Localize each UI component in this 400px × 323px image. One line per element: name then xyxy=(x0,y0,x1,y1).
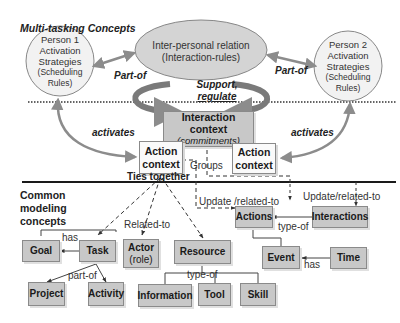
actions-box: Actions xyxy=(235,206,273,228)
interaction-context-subtitle: (commitments) xyxy=(177,135,240,147)
information-box: Information xyxy=(138,284,192,307)
type-of-actions-label: type-of xyxy=(278,221,309,232)
activates-left-label: activates xyxy=(92,127,135,138)
resource-box: Resource xyxy=(174,240,231,264)
action-context-left-line2: context xyxy=(142,158,179,171)
person1-line2: Activation xyxy=(26,45,94,56)
action-context-right-box: Action context xyxy=(232,143,276,174)
skill-box: Skill xyxy=(240,283,276,306)
action-context-left-box: Action context xyxy=(139,141,183,174)
task-box: Task xyxy=(79,240,116,262)
support-regulate-label: Support, regulate xyxy=(192,79,242,103)
part-of-right-label: Part-of xyxy=(275,65,307,76)
person2-label: Person 2 xyxy=(314,39,382,50)
actor-box: Actor (role) xyxy=(123,239,159,268)
person1-line3: Strategies xyxy=(26,56,94,67)
heading-line3: concepts xyxy=(20,215,67,228)
relation-node: Inter-personal relation (Interaction-rul… xyxy=(140,40,262,64)
has-time-label: has xyxy=(304,259,320,270)
actor-line2: (role) xyxy=(129,254,152,266)
activity-box: Activity xyxy=(88,282,124,306)
person2-line2: Activation xyxy=(314,50,382,61)
diagram-title: Multi-tasking Concepts xyxy=(20,22,136,34)
interaction-context-title: Interaction context xyxy=(164,111,253,135)
relation-line1: Inter-personal relation xyxy=(140,40,262,52)
person1-line5: Rules) xyxy=(26,78,94,89)
activates-right-label: activates xyxy=(291,127,334,138)
event-box: Event xyxy=(262,246,300,269)
support-line1: Support, xyxy=(192,79,242,91)
person2-line4: (Scheduling xyxy=(314,72,382,83)
relation-line2: (Interaction-rules) xyxy=(140,52,262,64)
interactions-box: Interactions xyxy=(312,206,368,228)
action-context-right-line2: context xyxy=(235,159,272,172)
update-related-right-label: Update/related-to xyxy=(303,191,380,202)
ties-together-label: Ties together xyxy=(127,171,190,182)
heading-line1: Common xyxy=(20,189,67,202)
person2-line3: Strategies xyxy=(314,61,382,72)
person2-node: Person 2 Activation Strategies (Scheduli… xyxy=(314,39,382,94)
part-of-left-label: Part-of xyxy=(114,70,146,81)
has-goal-label: has xyxy=(62,232,78,243)
heading-line2: modeling xyxy=(20,202,67,215)
support-line2: regulate xyxy=(192,91,242,103)
part-of-label: part-of xyxy=(68,270,97,281)
common-concepts-heading: Common modeling concepts xyxy=(20,189,67,228)
person1-line4: (Scheduling xyxy=(26,67,94,78)
person1-node: Person 1 Activation Strategies (Scheduli… xyxy=(26,34,94,89)
person1-label: Person 1 xyxy=(26,34,94,45)
person2-line5: Rules) xyxy=(314,83,382,94)
type-of-resource-label: type-of xyxy=(187,269,218,280)
actor-line1: Actor xyxy=(128,242,154,254)
goal-box: Goal xyxy=(22,240,60,262)
related-to-label: Related-to xyxy=(124,219,170,230)
time-box: Time xyxy=(330,247,367,269)
action-context-left-line1: Action xyxy=(145,145,178,158)
action-context-right-line1: Action xyxy=(238,146,271,159)
groups-label: Groups xyxy=(190,160,223,171)
tool-box: Tool xyxy=(198,283,231,306)
project-box: Project xyxy=(28,282,65,306)
